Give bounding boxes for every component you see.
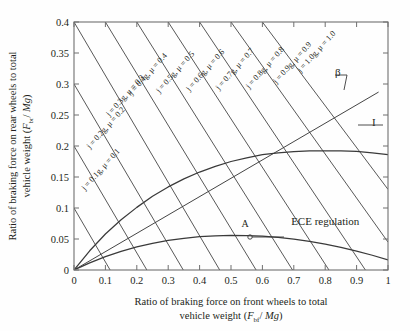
x-tick-label-7: 0.7	[287, 275, 300, 286]
y-tick-label-2: 0.1	[56, 203, 69, 214]
y-axis-title-post: )	[21, 94, 33, 98]
x-tick-label-4: 0.4	[193, 275, 207, 286]
x-axis-title-var2: Mg	[264, 310, 279, 321]
x-axis-title: Ratio of braking force on front wheels t…	[134, 296, 327, 324]
f-lines-group: j = 0.1g, μ = 0.1j = 0.2g, μ = 0.2j = 0.…	[74, 22, 388, 270]
y-tick-label-4: 0.2	[56, 141, 69, 152]
curve-ece-regulation	[74, 235, 388, 270]
y-axis-title-line1: Ratio of braking force on rear wheels to…	[7, 51, 18, 240]
f-line-7	[200, 22, 366, 270]
y-tick-label-8: 0.4	[56, 17, 70, 28]
y-axis-title-var2: Mg	[21, 98, 32, 113]
x-tick-label-1: 0.1	[99, 275, 112, 286]
y-tick-label-5: 0.25	[51, 110, 69, 121]
chart-canvas: j = 0.1g, μ = 0.1j = 0.2g, μ = 0.2j = 0.…	[0, 0, 410, 331]
i-curve-label: I	[372, 116, 376, 128]
y-tick-label-1: 0.05	[51, 234, 69, 245]
x-tick-label-8: 0.8	[319, 275, 332, 286]
y-tick-label-7: 0.35	[51, 48, 69, 59]
f-line-0	[74, 208, 110, 270]
x-tick-label-3: 0.3	[162, 275, 175, 286]
y-tick-label-6: 0.3	[56, 79, 69, 90]
x-axis-title-line1: Ratio of braking force on front wheels t…	[134, 296, 327, 307]
annotations-group: βIECE regulationA	[242, 66, 377, 229]
y-tick-label-3: 0.15	[51, 172, 69, 183]
ece-regulation-label: ECE regulation	[291, 215, 360, 227]
svg-text:vehicle weight (Fbf/ Mg): vehicle weight (Fbf/ Mg)	[180, 310, 283, 324]
x-tick-label-9: 0.9	[350, 275, 363, 286]
curve-i	[74, 151, 388, 270]
braking-force-distribution-figure: j = 0.1g, μ = 0.1j = 0.2g, μ = 0.2j = 0.…	[0, 0, 410, 331]
svg-text:vehicle weight (Fbr/ Mg): vehicle weight (Fbr/ Mg)	[21, 94, 35, 197]
point-a-label: A	[242, 218, 250, 229]
x-tick-label-6: 0.6	[256, 275, 269, 286]
x-tick-label-0: 0	[71, 275, 76, 286]
x-tick-label-2: 0.2	[130, 275, 143, 286]
f-line-3	[74, 22, 220, 270]
y-axis-title-line2-pre: vehicle weight (	[21, 129, 33, 197]
x-axis-title-post: )	[279, 310, 283, 322]
x-tick-label-5: 0.5	[224, 275, 237, 286]
svg-text:Ratio of braking force on rear: Ratio of braking force on rear wheels to…	[7, 51, 18, 240]
x-tick-label-10: 1	[385, 275, 390, 286]
beta-line-label: β	[335, 66, 341, 78]
y-tick-label-0: 0	[64, 265, 69, 276]
y-axis-title: Ratio of braking force on rear wheels to…	[7, 51, 35, 240]
x-axis-title-line2-pre: vehicle weight (	[180, 310, 248, 322]
svg-text:Ratio of braking force on fron: Ratio of braking force on front wheels t…	[134, 296, 327, 307]
